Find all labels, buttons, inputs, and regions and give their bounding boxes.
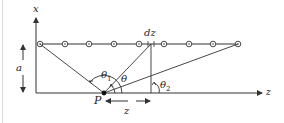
- point-P: [102, 91, 107, 96]
- z-axis-label: z: [266, 88, 271, 97]
- theta1-label: θ1: [101, 70, 112, 83]
- a-label: a: [16, 63, 22, 73]
- theta1-subscript: 1: [107, 75, 111, 83]
- z-distance-label: z: [124, 106, 129, 116]
- theta2-subscript: 2: [166, 85, 170, 93]
- x-axis-label: x: [33, 4, 39, 14]
- line-charge-diagram: [0, 0, 284, 123]
- dz-label: dz: [144, 28, 156, 38]
- P-label: P: [94, 95, 101, 106]
- theta2-label: θ2: [160, 80, 171, 93]
- lines-from-P: [40, 44, 238, 93]
- theta-label: θ: [121, 74, 127, 84]
- line-charge-wire: [37, 41, 241, 47]
